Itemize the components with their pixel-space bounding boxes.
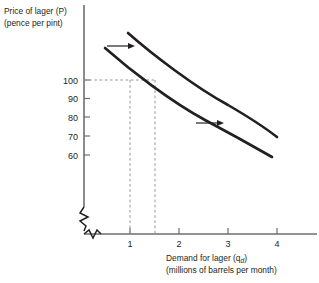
y-tick-label: 90 (68, 94, 78, 104)
x-tick-label: 4 (274, 239, 279, 249)
guide-lines (84, 80, 155, 234)
y-axis-title-line2: (pence per pint) (4, 18, 63, 28)
y-tick-label: 80 (68, 113, 78, 123)
x-axis-title-paren: ) (244, 253, 247, 263)
x-tick-label: 1 (127, 239, 132, 249)
x-axis-ticks: 1 2 3 4 (127, 228, 279, 249)
x-axis-title-main: Demand for lager (q (166, 253, 241, 263)
y-tick-label: 60 (68, 151, 78, 161)
y-axis-ticks: 100 90 80 70 60 (63, 76, 90, 161)
y-tick-label: 100 (63, 76, 78, 86)
x-tick-label: 2 (176, 239, 181, 249)
x-axis-title-line2: (millions of barrels per month) (166, 265, 277, 275)
y-tick-label: 70 (68, 132, 78, 142)
shift-arrow-lower (196, 120, 224, 126)
shift-arrow-upper (107, 43, 135, 49)
x-axis-title-line1: Demand for lager (qd) (166, 253, 247, 264)
y-axis-break-icon (80, 207, 88, 231)
chart-svg: Price of lager (P) (pence per pint) 100 … (0, 0, 319, 283)
y-axis-title-line1: Price of lager (P) (4, 6, 67, 16)
demand-curve-chart: Price of lager (P) (pence per pint) 100 … (0, 0, 319, 283)
x-tick-label: 3 (225, 239, 230, 249)
